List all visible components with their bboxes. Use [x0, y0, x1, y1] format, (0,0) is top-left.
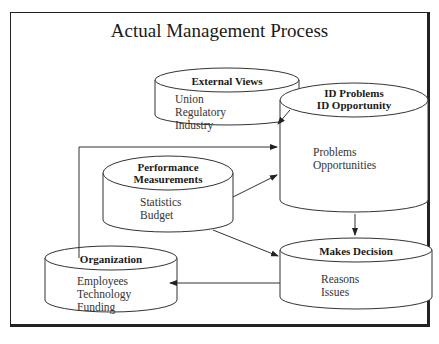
- item: Union: [175, 93, 226, 106]
- item: Statistics: [140, 196, 182, 209]
- item: Issues: [321, 286, 359, 299]
- arrow-performance-to-id: [233, 175, 277, 197]
- node-performance-title: Performance Measurements: [103, 161, 233, 185]
- node-makes-decision-title: Makes Decision: [280, 245, 432, 257]
- item: Problems: [313, 146, 376, 159]
- node-id-problems-title: ID Problems ID Opportunity: [280, 87, 428, 111]
- arrow-performance-to-decision: [213, 230, 278, 256]
- node-external-views-items: Union Regulatory Industry: [175, 93, 226, 132]
- item: Budget: [140, 209, 182, 222]
- item: Regulatory: [175, 106, 226, 119]
- item: Funding: [77, 301, 131, 314]
- node-id-problems-items: Problems Opportunities: [313, 146, 376, 172]
- node-makes-decision-items: Reasons Issues: [321, 273, 359, 299]
- item: Opportunities: [313, 159, 376, 172]
- item: Employees: [77, 275, 131, 288]
- node-performance-items: Statistics Budget: [140, 196, 182, 222]
- node-organization-title: Organization: [45, 253, 177, 265]
- node-organization-items: Employees Technology Funding: [77, 275, 131, 314]
- item: Reasons: [321, 273, 359, 286]
- item: Industry: [175, 119, 226, 132]
- node-external-views-title: External Views: [155, 75, 299, 87]
- item: Technology: [77, 288, 131, 301]
